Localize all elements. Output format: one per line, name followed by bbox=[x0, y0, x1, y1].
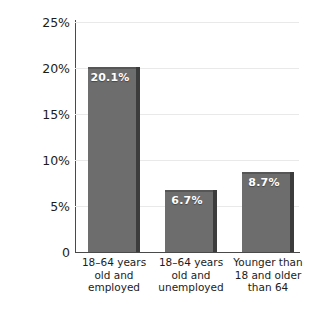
x-axis-category-label-line: 18 and older bbox=[230, 269, 306, 282]
x-axis-category-label-line: old and bbox=[153, 269, 229, 282]
y-axis-tick-label: 10% bbox=[30, 153, 70, 168]
y-axis-tick-label: 25% bbox=[30, 15, 70, 30]
y-axis-tick-label: 20% bbox=[30, 61, 70, 76]
bar-value-label: 6.7% bbox=[165, 194, 209, 207]
y-axis-tick-labels: 25%20%15%10%5%0 bbox=[26, 22, 70, 252]
x-axis-category-label: Younger than18 and olderthan 64 bbox=[230, 256, 306, 294]
bar: 6.7% bbox=[165, 190, 217, 252]
bar-top-edge bbox=[165, 190, 213, 192]
x-axis-category-label-line: 18–64 years bbox=[153, 256, 229, 269]
x-axis-category-label-line: 18–64 years bbox=[76, 256, 152, 269]
plot-area: 20.1%6.7%8.7% bbox=[75, 22, 299, 252]
x-axis-category-label-line: Younger than bbox=[230, 256, 306, 269]
x-axis-category-labels: 18–64 yearsold andemployed18–64 yearsold… bbox=[75, 256, 299, 308]
x-axis-category-label-line: old and bbox=[76, 269, 152, 282]
bar-value-label: 20.1% bbox=[88, 71, 132, 84]
bar: 8.7% bbox=[242, 172, 294, 252]
y-axis-tick-label: 5% bbox=[30, 199, 70, 214]
bar-top-edge bbox=[242, 172, 290, 174]
y-axis-tick-label: 15% bbox=[30, 107, 70, 122]
bar-chart: Percentage without insurance 25%20%15%10… bbox=[0, 0, 312, 312]
bar-top-edge bbox=[88, 67, 136, 69]
x-axis-line bbox=[75, 252, 300, 253]
x-axis-category-label-line: unemployed bbox=[153, 281, 229, 294]
gridline bbox=[75, 22, 299, 23]
x-axis-category-label: 18–64 yearsold andemployed bbox=[76, 256, 152, 294]
bar: 20.1% bbox=[88, 67, 140, 252]
x-axis-category-label-line: employed bbox=[76, 281, 152, 294]
bar-value-label: 8.7% bbox=[242, 176, 286, 189]
x-axis-category-label-line: than 64 bbox=[230, 281, 306, 294]
y-axis-tick-label: 0 bbox=[30, 245, 70, 260]
x-axis-category-label: 18–64 yearsold andunemployed bbox=[153, 256, 229, 294]
